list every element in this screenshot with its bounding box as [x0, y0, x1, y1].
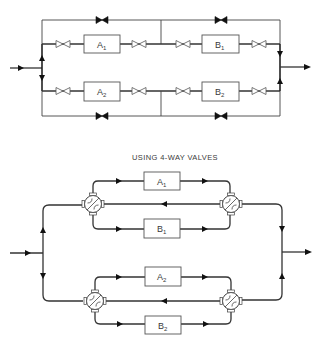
unit-box-a2: A2 [84, 82, 120, 101]
four-way-valve-icon [220, 193, 242, 215]
flow-arrow-icon [304, 64, 311, 70]
flow-arrow-icon [161, 298, 167, 304]
unit-box-b1: B1 [202, 35, 239, 53]
process-flow-diagram: A1 B1 A2 B2 [0, 0, 327, 344]
diagram-title: USING 4-WAY VALVES [132, 153, 218, 162]
closed-valve-icon [96, 17, 108, 24]
flow-arrow-icon [202, 226, 208, 232]
closed-valve-icon [215, 17, 227, 24]
four-way-valve-icon [220, 290, 242, 312]
unit-box-b1: B1 [144, 219, 180, 238]
flow-arrow-icon [18, 65, 24, 71]
top-diagram: A1 B1 A2 B2 [10, 17, 311, 120]
flow-arrow-icon [203, 321, 209, 327]
unit-box-b2: B2 [145, 316, 181, 334]
flow-arrow-icon [116, 274, 122, 280]
open-valve-icon [56, 41, 70, 48]
flow-arrow-icon [116, 178, 122, 184]
open-valve-icon [176, 88, 190, 95]
flow-arrow-icon [277, 51, 283, 57]
unit-box-a1: A1 [144, 172, 180, 190]
open-valve-icon [252, 41, 266, 48]
open-valve-icon [56, 88, 70, 95]
flow-arrow-icon [279, 273, 285, 279]
flow-arrow-icon [279, 226, 285, 232]
open-valve-icon [132, 88, 146, 95]
bottom-diagram: USING 4-WAY VALVES A1 [10, 153, 312, 334]
flow-arrow-icon [277, 78, 283, 84]
four-way-valve-icon [84, 290, 106, 312]
flow-arrow-icon [161, 201, 167, 207]
flow-arrow-icon [202, 274, 208, 280]
closed-valve-icon [96, 113, 108, 120]
open-valve-icon [252, 88, 266, 95]
flow-arrow-icon [202, 178, 208, 184]
four-way-valve-icon [82, 193, 104, 215]
flow-arrow-icon [39, 75, 45, 81]
unit-box-b2: B2 [202, 82, 239, 101]
flow-arrow-icon [116, 226, 122, 232]
unit-box-a2: A2 [145, 267, 181, 286]
flow-arrow-icon [39, 55, 45, 61]
open-valve-icon [132, 41, 146, 48]
open-valve-icon [176, 41, 190, 48]
flow-arrow-icon [117, 321, 123, 327]
flow-arrow-icon [305, 249, 312, 255]
flow-arrow-icon [25, 250, 31, 256]
flow-arrow-icon [40, 273, 46, 279]
closed-valve-icon [215, 113, 227, 120]
unit-box-a1: A1 [84, 35, 120, 53]
flow-arrow-icon [40, 227, 46, 233]
